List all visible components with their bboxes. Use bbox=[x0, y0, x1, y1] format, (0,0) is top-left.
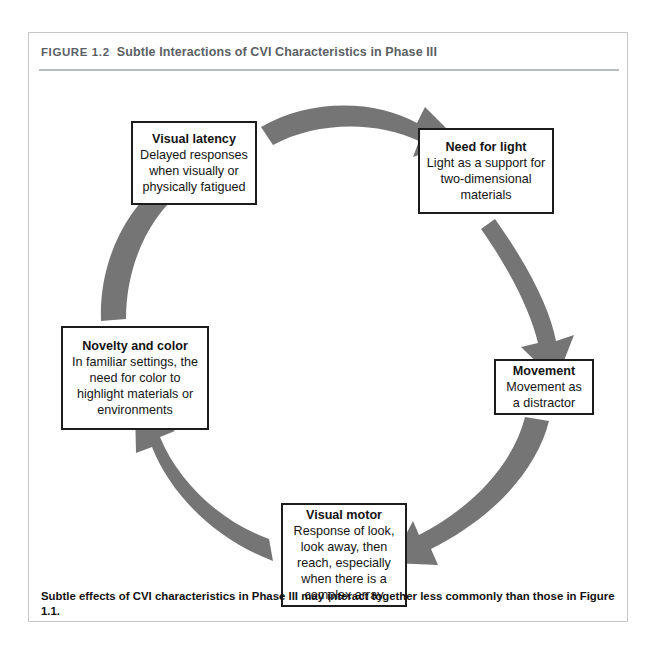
arrow-movement-to-motor bbox=[391, 417, 549, 565]
node-need-for-light-description: Light as a support for two-dimensional m… bbox=[425, 155, 547, 203]
figure-title-text: Subtle Interactions of CVI Characteristi… bbox=[117, 45, 437, 59]
node-novelty-and-color-description: In familiar settings, the need for color… bbox=[68, 354, 202, 418]
page-running-header: 16 CVI and Functional Vision bbox=[0, 0, 655, 14]
node-need-for-light[interactable]: Need for light Light as a support for tw… bbox=[418, 128, 554, 214]
page-folio: 16 bbox=[0, 0, 12, 1]
figure-frame: FIGURE 1.2 Subtle Interactions of CVI Ch… bbox=[28, 32, 628, 622]
node-movement-title: Movement bbox=[513, 363, 575, 379]
node-need-for-light-title: Need for light bbox=[445, 139, 526, 155]
cycle-diagram: Visual latency Delayed responses when vi… bbox=[29, 71, 627, 586]
node-visual-latency[interactable]: Visual latency Delayed responses when vi… bbox=[131, 121, 257, 205]
node-novelty-and-color-title: Novelty and color bbox=[82, 338, 188, 354]
figure-number-label: FIGURE 1.2 bbox=[41, 46, 110, 58]
node-movement[interactable]: Movement Movement as a distractor bbox=[494, 359, 594, 415]
arrow-motor-to-novelty bbox=[135, 407, 273, 561]
figure-caption: Subtle effects of CVI characteristics in… bbox=[41, 589, 619, 619]
node-visual-motor-title: Visual motor bbox=[306, 507, 382, 523]
running-head-text: CVI and Functional Vision bbox=[14, 0, 154, 1]
node-movement-description: Movement as a distractor bbox=[501, 379, 587, 411]
arrow-light-to-movement bbox=[481, 219, 574, 381]
node-visual-latency-title: Visual latency bbox=[152, 131, 236, 147]
figure-title: FIGURE 1.2 Subtle Interactions of CVI Ch… bbox=[41, 45, 437, 59]
node-novelty-and-color[interactable]: Novelty and color In familiar settings, … bbox=[61, 326, 209, 430]
node-visual-latency-description: Delayed responses when visually or physi… bbox=[138, 147, 250, 195]
